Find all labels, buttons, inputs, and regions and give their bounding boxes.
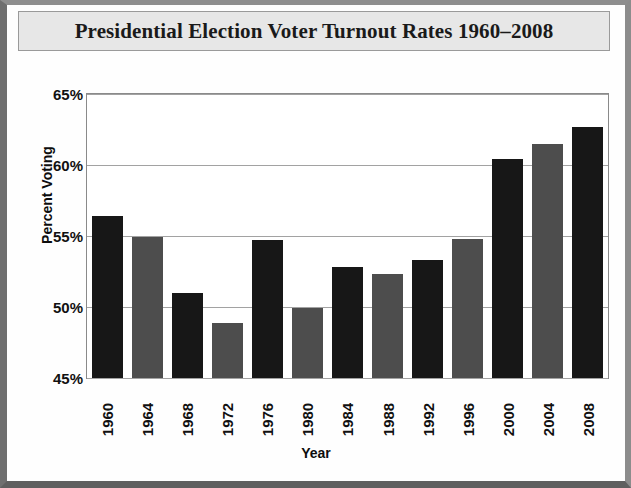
- plot-area: [86, 93, 609, 379]
- bar-1984: [332, 267, 363, 378]
- x-axis-tick-label: 2008: [580, 389, 597, 451]
- x-axis-tick-slot: 2008: [573, 381, 604, 443]
- y-axis-tick-label: 45%: [35, 370, 83, 387]
- x-axis-tick-label: 1960: [98, 389, 115, 451]
- page-title: Presidential Election Voter Turnout Rate…: [75, 19, 554, 44]
- x-axis-tick-label: 1980: [299, 389, 316, 451]
- bar-1988: [372, 274, 403, 378]
- y-axis-tick-group: 45%50%55%60%65%: [29, 93, 83, 379]
- y-axis-tick-label: 50%: [35, 299, 83, 316]
- x-axis-tick-label: 2004: [540, 389, 557, 451]
- bar-2000: [492, 159, 523, 378]
- x-axis-tick-slot: 1976: [252, 381, 283, 443]
- x-axis-tick-slot: 1968: [171, 381, 202, 443]
- x-axis-tick-label: 1964: [138, 389, 155, 451]
- bar-group: [87, 94, 608, 378]
- x-axis-tick-slot: 2004: [533, 381, 564, 443]
- x-axis-tick-label: 1972: [218, 389, 235, 451]
- bar-2004: [532, 144, 563, 378]
- bar-1980: [292, 308, 323, 378]
- x-axis-tick-label: 1976: [259, 389, 276, 451]
- bar-1992: [412, 260, 443, 378]
- chart-title-band: Presidential Election Voter Turnout Rate…: [18, 11, 610, 51]
- x-axis-tick-slot: 1996: [452, 381, 483, 443]
- x-axis-tick-label: 1988: [379, 389, 396, 451]
- bar-1976: [252, 240, 283, 378]
- x-axis-tick-slot: 1960: [91, 381, 122, 443]
- x-axis-tick-slot: 1984: [332, 381, 363, 443]
- x-axis-tick-label: 1996: [459, 389, 476, 451]
- x-axis-tick-label: 2000: [500, 389, 517, 451]
- gridline: [87, 378, 608, 379]
- bar-1996: [452, 239, 483, 378]
- x-axis-tick-slot: 1988: [372, 381, 403, 443]
- x-axis-tick-slot: 1992: [412, 381, 443, 443]
- bar-1964: [132, 237, 163, 378]
- x-axis-tick-group: 1960196419681972197619801984198819921996…: [86, 381, 609, 443]
- bar-2008: [572, 127, 603, 378]
- x-axis-label: Year: [7, 445, 625, 461]
- y-axis-tick-label: 55%: [35, 228, 83, 245]
- x-axis-tick-label: 1992: [419, 389, 436, 451]
- x-axis-tick-slot: 2000: [493, 381, 524, 443]
- chart-figure: Presidential Election Voter Turnout Rate…: [0, 0, 631, 488]
- x-axis-tick-slot: 1980: [292, 381, 323, 443]
- figure-inner: Presidential Election Voter Turnout Rate…: [7, 5, 625, 481]
- bar-1968: [172, 293, 203, 378]
- x-axis-tick-label: 1984: [339, 389, 356, 451]
- bar-1972: [212, 323, 243, 378]
- x-axis-tick-slot: 1972: [211, 381, 242, 443]
- x-axis-tick-slot: 1964: [131, 381, 162, 443]
- y-axis-tick-label: 65%: [35, 86, 83, 103]
- bar-1960: [92, 216, 123, 378]
- x-axis-tick-label: 1968: [178, 389, 195, 451]
- y-axis-tick-label: 60%: [35, 157, 83, 174]
